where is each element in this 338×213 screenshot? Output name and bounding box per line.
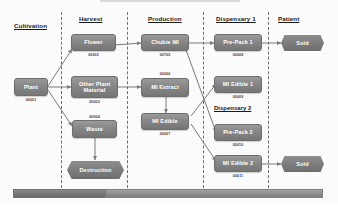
node-waste[interactable]: Waste	[72, 120, 117, 138]
node-flower[interactable]: Flower	[71, 34, 116, 51]
node-mi-edible[interactable]: MI Edible	[141, 113, 189, 130]
column-divider-cultivation-harvest	[61, 12, 62, 188]
node-mi-edible-2-id: 00011	[214, 174, 262, 178]
diagram-canvas: Cultivation Harvest Production Dispensar…	[0, 0, 338, 213]
node-flower-label: Flower	[84, 39, 103, 45]
node-other-plant-material[interactable]: Other Plant Material	[71, 76, 118, 98]
node-mi-edible-1[interactable]: MI Edible 1	[214, 76, 262, 93]
node-chubie-mi[interactable]: Chubie MI	[141, 34, 189, 51]
connector-layer	[0, 0, 338, 213]
node-flower-id: 00002	[71, 53, 116, 57]
node-other-plant-material-label: Other Plant Material	[74, 81, 115, 94]
column-header-cultivation: Cultivation	[14, 22, 47, 29]
column-header-production: Production	[148, 15, 182, 22]
scan-artifact-top	[100, 0, 240, 2]
node-destruction-label: Destruction	[79, 167, 111, 173]
node-plant-label: Plant	[24, 84, 38, 90]
node-plant-id: 00001	[14, 98, 48, 102]
node-other-plant-material-id: 00003	[71, 100, 118, 104]
node-chubie-mi-id: 00705	[141, 53, 189, 57]
node-sold-top-label: Sold	[296, 40, 309, 46]
edge-flower-chubie	[115, 43, 141, 45]
node-chubie-mi-label: Chubie MI	[151, 39, 179, 45]
node-mi-extract[interactable]: MI Extract	[141, 78, 189, 97]
column-divider-dispensary-patient	[268, 12, 269, 188]
edge-plant-waste	[48, 90, 72, 126]
node-sold-top[interactable]: Sold	[281, 35, 324, 51]
column-divider-production-dispensary	[203, 12, 204, 188]
scan-grain-overlay	[0, 0, 338, 213]
node-pre-pack-1-id: 00008	[214, 53, 262, 57]
node-mi-edible-label: MI Edible	[152, 118, 177, 124]
scan-artifact-bottom	[0, 205, 338, 213]
node-mi-edible-2[interactable]: MI Edible 2	[214, 155, 262, 172]
node-plant[interactable]: Plant	[14, 78, 48, 96]
node-sold-bottom-label: Sold	[296, 161, 309, 167]
node-mi-extract-label: MI Extract	[151, 84, 179, 90]
node-pre-pack-1-label: Pre-Pack 1	[223, 39, 253, 45]
node-destruction[interactable]: Destruction	[67, 161, 124, 179]
node-pre-pack-1[interactable]: Pre-Pack 1	[214, 34, 262, 51]
node-mi-extract-id: 00006	[141, 72, 189, 76]
node-pre-pack-2[interactable]: Pre-Pack 2	[214, 124, 262, 141]
node-pre-pack-2-id: 00010	[214, 143, 262, 147]
edge-plant-flower	[48, 49, 72, 86]
column-header-patient: Patient	[278, 15, 299, 22]
node-sold-bottom[interactable]: Sold	[281, 156, 324, 172]
sub-header-dispensary-2: Dispensary 2	[214, 105, 251, 111]
column-header-dispensary-1: Dispensary 1	[216, 15, 256, 22]
node-mi-edible-1-label: MI Edible 1	[223, 81, 253, 87]
column-divider-harvest-production	[127, 12, 128, 188]
node-waste-label: Waste	[86, 126, 103, 132]
timeline-bar-fill	[13, 189, 106, 198]
node-pre-pack-2-label: Pre-Pack 2	[223, 129, 253, 135]
node-mi-edible-id: 00007	[141, 132, 189, 136]
edge-chubie-prepack2	[186, 50, 216, 132]
node-mi-edible-1-id: 00009	[214, 95, 262, 99]
node-mi-edible-2-label: MI Edible 2	[223, 160, 253, 166]
column-header-harvest: Harvest	[79, 15, 102, 22]
node-waste-id: 00004	[72, 115, 117, 119]
